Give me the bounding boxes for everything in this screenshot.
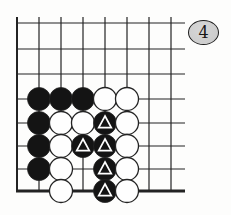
stone-black <box>28 135 51 158</box>
stone-white <box>50 180 73 203</box>
figure-number-badge: 4 <box>188 20 219 45</box>
stone-white <box>116 88 139 111</box>
stone-white <box>50 112 73 135</box>
stone-white <box>50 135 73 158</box>
stone-white <box>116 158 139 181</box>
stone-black <box>28 112 51 135</box>
stone-black <box>72 88 95 111</box>
stone-white <box>94 88 117 111</box>
stone-black <box>28 88 51 111</box>
stone-black <box>28 158 51 181</box>
stone-white <box>50 158 73 181</box>
stone-black <box>50 88 73 111</box>
diagram-page: 4 <box>0 0 231 215</box>
figure-number: 4 <box>198 25 208 41</box>
stone-white <box>116 112 139 135</box>
stone-white <box>72 112 95 135</box>
stone-white <box>116 135 139 158</box>
stone-white <box>116 180 139 203</box>
